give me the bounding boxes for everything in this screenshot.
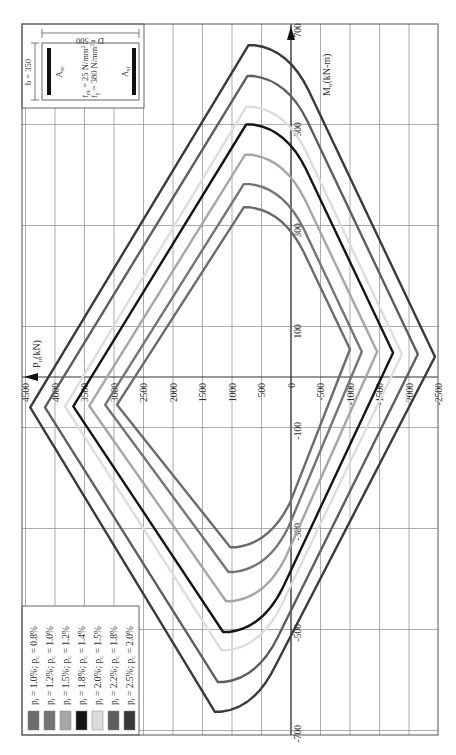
legend-swatch (108, 711, 119, 730)
asc-bar (47, 48, 51, 95)
legend-label: pt = 1.2%; pc = 1.0% (45, 626, 56, 705)
legend-label: pt = 1.8%; pc = 1.4% (77, 626, 88, 705)
legend-swatch (124, 711, 135, 730)
p-tick-label: 2500 (139, 383, 149, 402)
p-tick-label: 500 (257, 383, 267, 398)
legend-swatch (92, 711, 103, 730)
legend-swatch (76, 711, 87, 730)
b-label: b = 350 (23, 59, 33, 85)
p-tick-label: -2500 (434, 383, 444, 405)
legend-label: pt = 1.0%; pc = 0.8% (29, 626, 40, 705)
p-tick-label: 1000 (228, 383, 238, 402)
ast-bar (132, 48, 136, 95)
legend-swatch (28, 711, 39, 730)
p-tick-label: 2000 (169, 383, 179, 402)
p-tick-label: 1500 (198, 383, 208, 402)
m-tick-label: 700 (293, 23, 303, 38)
p-tick-label: 0 (287, 383, 297, 388)
legend-label: pt = 1.5%; pc = 1.2% (61, 626, 72, 705)
legend-label: pt = 2.0%; pc = 1.5% (93, 626, 104, 705)
legend-swatch (44, 711, 55, 730)
legend: pt = 1.0%; pc = 0.8%pt = 1.2%; pc = 1.0%… (22, 606, 139, 735)
legend-label: pt = 2.5%; pc = 2.0% (125, 626, 136, 705)
legend-label: pt = 2.2%; pc = 1.8% (109, 626, 120, 705)
p-tick-label: -500 (316, 383, 326, 401)
fy-label: fy = 380 N/mm2 (89, 44, 100, 98)
legend-swatch (60, 711, 71, 730)
m-tick-label: -100 (293, 422, 303, 440)
m-tick-label: -700 (293, 725, 303, 743)
section-inset: D = 500 b = 350 Asc Ast fck = 25 N/mm2 f… (22, 24, 144, 108)
m-tick-label: 100 (293, 324, 303, 339)
interaction-diagram-chart: 450040003500300025002000150010005000-500… (0, 0, 456, 755)
